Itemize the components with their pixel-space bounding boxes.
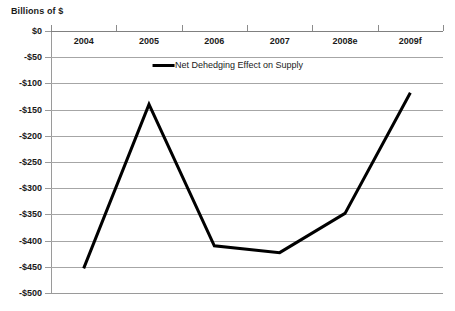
y-tick-mark (45, 110, 51, 111)
y-axis-tick-label: -$350 (0, 209, 42, 219)
gridline-neg150 (51, 110, 443, 111)
x-tick-mark (51, 25, 52, 31)
gridline-neg200 (51, 136, 443, 137)
legend-entry-label: Net Dehedging Effect on Supply (175, 60, 303, 70)
x-axis-label-2009f: 2009f (399, 36, 422, 46)
x-axis-label-2008e: 2008e (332, 36, 357, 46)
y-axis-tick-label: -$300 (0, 183, 42, 193)
chart-legend: Net Dehedging Effect on Supply (152, 60, 303, 70)
gridline-neg350 (51, 214, 443, 215)
y-tick-mark (45, 31, 51, 32)
x-tick-mark (247, 25, 248, 31)
y-tick-mark (45, 293, 51, 294)
y-tick-mark (45, 214, 51, 215)
x-axis-label-2005: 2005 (139, 36, 159, 46)
y-axis-tick-label: $0 (0, 26, 42, 36)
x-axis-label-2007: 2007 (270, 36, 290, 46)
y-tick-mark (45, 136, 51, 137)
chart-container: Billions of $ $0-$50-$100-$150-$200-$250… (0, 0, 455, 311)
y-tick-mark (45, 83, 51, 84)
gridline-neg300 (51, 188, 443, 189)
x-tick-mark (182, 25, 183, 31)
y-axis-title: Billions of $ (11, 6, 63, 16)
x-axis-label-2006: 2006 (204, 36, 224, 46)
gridline-neg400 (51, 241, 443, 242)
y-axis-tick-label: -$500 (0, 288, 42, 298)
y-axis-tick-label: -$450 (0, 262, 42, 272)
x-tick-mark (116, 25, 117, 31)
gridline-neg100 (51, 83, 443, 84)
y-tick-mark (45, 188, 51, 189)
y-axis-tick-label: -$250 (0, 157, 42, 167)
y-tick-mark (45, 57, 51, 58)
gridline-neg500 (51, 293, 443, 294)
x-axis-label-2004: 2004 (74, 36, 94, 46)
gridline-0 (51, 31, 443, 32)
y-axis-tick-label: -$100 (0, 78, 42, 88)
y-axis-tick-label: -$200 (0, 131, 42, 141)
y-axis-tick-label: -$150 (0, 105, 42, 115)
y-tick-mark (45, 267, 51, 268)
gridline-neg450 (51, 267, 443, 268)
gridline-neg50 (51, 57, 443, 58)
y-axis-tick-label: -$400 (0, 236, 42, 246)
legend-line-swatch-icon (152, 64, 174, 67)
gridline-neg250 (51, 162, 443, 163)
y-tick-mark (45, 241, 51, 242)
y-axis-tick-label: -$50 (0, 52, 42, 62)
y-tick-mark (45, 162, 51, 163)
x-tick-mark (378, 25, 379, 31)
x-tick-mark (443, 25, 444, 31)
x-tick-mark (312, 25, 313, 31)
